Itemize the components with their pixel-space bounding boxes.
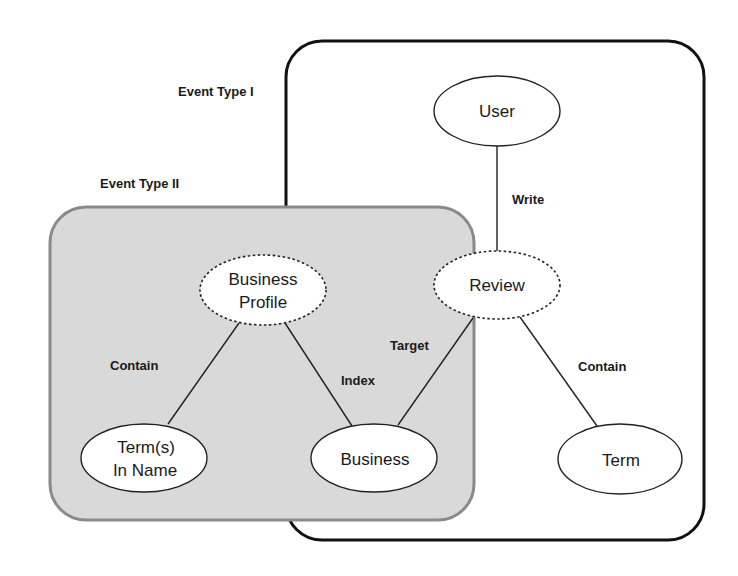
node-user: User	[434, 76, 560, 146]
node-user-label: User	[479, 102, 515, 121]
node-term: Term	[558, 424, 682, 494]
edge-label-write: Write	[512, 192, 544, 207]
node-business-profile: Business Profile	[200, 255, 326, 325]
node-terms-in-name-label-line2: In Name	[113, 461, 177, 480]
group-label-event-type-2: Event Type II	[100, 176, 179, 191]
diagram-canvas: Event Type I Event Type II Write Contain…	[0, 0, 738, 576]
node-term-label: Term	[602, 451, 640, 470]
node-business-profile-label-line2: Profile	[239, 293, 287, 312]
group-label-event-type-1: Event Type I	[178, 84, 254, 99]
edge-label-contain-term: Contain	[578, 359, 626, 374]
node-review-label: Review	[469, 276, 525, 295]
node-terms-in-name-shape	[81, 424, 207, 492]
edge-label-target: Target	[390, 338, 429, 353]
node-business-profile-label-line1: Business	[229, 270, 298, 289]
edge-label-contain-name: Contain	[110, 358, 158, 373]
edge-label-index: Index	[341, 373, 376, 388]
node-business-profile-shape	[200, 255, 326, 325]
node-business: Business	[311, 424, 437, 492]
node-business-label: Business	[341, 450, 410, 469]
node-review: Review	[434, 251, 560, 319]
node-terms-in-name-label-line1: Term(s)	[117, 438, 175, 457]
node-terms-in-name: Term(s) In Name	[81, 424, 207, 492]
